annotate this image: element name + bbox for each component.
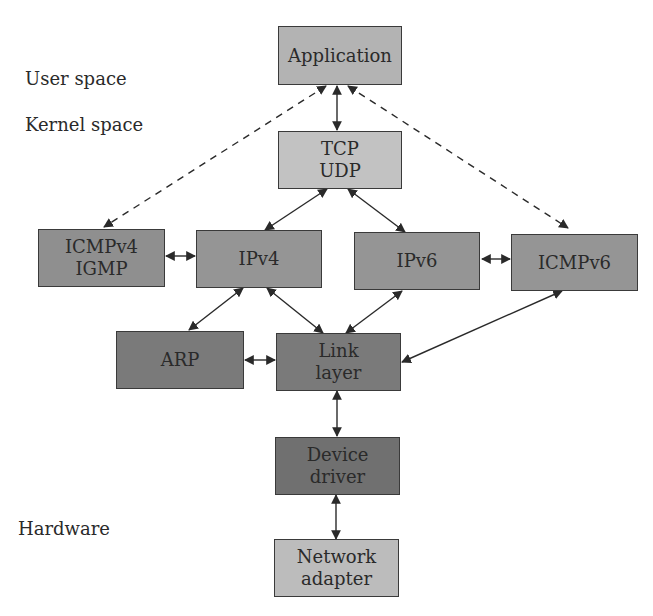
node-application: Application [278,26,402,85]
node-label: IPv6 [397,250,438,272]
node-arp: ARP [116,331,244,389]
edge-icmpv6-link [402,291,562,362]
node-icmpv6: ICMPv6 [511,234,638,291]
node-label: TCP [321,138,359,160]
node-device-driver: Device driver [275,437,400,495]
node-label: ICMPv6 [538,252,611,274]
node-link-layer: Link layer [276,333,401,391]
node-label: Device [307,444,369,466]
node-label: ICMPv4 [65,236,138,258]
node-ipv4: IPv4 [196,230,322,288]
edge-tcp-ipv6 [348,189,405,232]
node-label: Network [297,546,376,568]
connection-arrows [0,0,653,616]
edge-ipv6-link [346,291,402,333]
node-label: Application [288,45,392,67]
node-icmpv4-igmp: ICMPv4 IGMP [38,229,165,287]
node-label: driver [310,466,365,488]
node-label: IPv4 [239,248,280,270]
node-label: layer [316,362,362,384]
node-label: adapter [301,568,372,590]
node-label: ARP [161,349,200,371]
node-ipv6: IPv6 [354,232,480,290]
edge-tcp-ipv4 [265,189,327,230]
node-label: Link [318,340,358,362]
node-tcp-udp: TCP UDP [278,131,402,189]
node-label: UDP [319,160,361,182]
node-label: IGMP [75,258,127,280]
edge-ipv4-arp [189,288,243,330]
node-network-adapter: Network adapter [274,539,399,597]
edge-ipv4-link [267,288,323,333]
